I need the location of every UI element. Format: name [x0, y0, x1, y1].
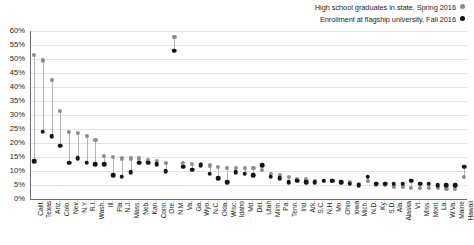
data-point-enrollment [260, 163, 265, 168]
data-point-enrollment [58, 144, 63, 149]
gridline [30, 31, 467, 32]
gridline [30, 129, 467, 130]
data-point-enrollment [330, 179, 335, 184]
data-point-enrollment [76, 156, 81, 161]
data-point-graduates [164, 161, 168, 165]
data-point-enrollment [304, 180, 309, 185]
x-axis-tick-label: Fla. [116, 201, 123, 212]
data-point-enrollment [444, 183, 449, 188]
data-point-graduates [67, 130, 71, 134]
x-axis-tick-label: Vt. [414, 201, 421, 209]
data-point-graduates [190, 162, 194, 166]
x-axis-tick-label: Va. [186, 201, 193, 210]
x-axis-tick-label: Conn. [160, 201, 167, 218]
x-axis-tick-label: N.J. [124, 201, 131, 213]
data-point-enrollment [93, 162, 98, 167]
data-point-enrollment [234, 170, 239, 175]
x-axis-tick-label: Iowa [353, 201, 360, 215]
x-axis-tick-label: Hawaii [467, 201, 474, 221]
connector-stem [69, 132, 70, 163]
x-axis-tick-label: S.C. [317, 201, 324, 214]
gridline [30, 73, 467, 74]
data-point-enrollment [181, 165, 186, 170]
data-point-graduates [225, 166, 229, 170]
x-axis-tick-label: La. [440, 201, 447, 210]
data-point-enrollment [102, 162, 107, 167]
gridline [30, 87, 467, 88]
connector-stem [34, 55, 35, 161]
y-axis-tick-label: 20% [10, 139, 25, 147]
data-point-graduates [453, 187, 457, 191]
data-point-graduates [93, 138, 97, 142]
x-axis-tick-label: Ga. [195, 201, 202, 211]
data-point-enrollment [356, 183, 361, 188]
data-point-graduates [41, 58, 45, 62]
x-axis-tick-label: Ariz. [54, 201, 61, 214]
data-point-enrollment [418, 181, 423, 186]
x-axis-tick-label: Miss. [423, 201, 430, 216]
x-axis-tick-label: Mass. [133, 201, 140, 218]
data-point-enrollment [190, 167, 195, 172]
x-axis-tick-label: Ark. [309, 201, 316, 213]
data-point-enrollment [453, 183, 458, 188]
y-axis-tick-label: 5% [14, 181, 25, 189]
data-point-graduates [286, 175, 290, 179]
x-axis-tick-label: Wisc. [230, 201, 237, 217]
connector-stem [52, 80, 53, 136]
data-point-enrollment [216, 176, 221, 181]
x-axis-tick-label: Pa. [282, 201, 289, 211]
data-point-graduates [207, 163, 211, 167]
data-point-graduates [365, 179, 369, 183]
y-axis-line [30, 31, 31, 200]
data-point-graduates [76, 131, 80, 135]
data-point-enrollment [67, 160, 72, 165]
data-point-enrollment [41, 130, 46, 135]
data-point-enrollment [146, 160, 151, 165]
y-axis-tick-label: 30% [10, 111, 25, 119]
x-axis-tick-label: Texas [45, 201, 52, 218]
gridline [30, 101, 467, 102]
data-point-graduates [444, 187, 448, 191]
x-axis-tick-label: Ky. [379, 201, 386, 210]
y-axis-tick-label: 60% [10, 27, 25, 35]
y-axis-tick-label: 45% [10, 69, 25, 77]
data-point-enrollment [155, 162, 160, 167]
data-point-graduates [251, 166, 255, 170]
data-point-graduates [172, 35, 176, 39]
data-point-graduates [32, 53, 36, 57]
y-axis-labels: 0%5%10%15%20%25%30%35%40%45%50%55%60% [0, 0, 28, 205]
x-axis-tick-label: Mont. [432, 201, 439, 217]
data-point-enrollment [365, 174, 370, 179]
data-point-enrollment [163, 169, 168, 174]
x-axis-tick-label: Colo. [63, 201, 70, 216]
x-axis-tick-label: N.M. [177, 201, 184, 215]
connector-stem [78, 133, 79, 158]
y-axis-tick-label: 35% [10, 97, 25, 105]
x-axis-tick-label: Ore. [168, 201, 175, 214]
data-point-enrollment [137, 160, 142, 165]
y-axis-tick-label: 10% [10, 167, 25, 175]
x-axis-tick-label: Tenn. [291, 201, 298, 217]
data-point-enrollment [374, 181, 379, 186]
x-axis-tick-label: Wash. [98, 201, 105, 219]
gridline [30, 59, 467, 60]
x-axis-tick-label: Minn. [274, 201, 281, 217]
data-point-enrollment [409, 179, 414, 184]
x-axis-tick-label: N.H. [326, 201, 333, 214]
x-axis-tick-label: Kan. [151, 201, 158, 214]
x-axis-tick-label: Del. [256, 201, 263, 213]
data-point-graduates [409, 186, 413, 190]
x-axis-tick-label: Nev. [72, 201, 79, 214]
data-point-enrollment [111, 173, 116, 178]
data-point-graduates [462, 175, 466, 179]
data-point-enrollment [462, 165, 467, 170]
connector-stem [60, 111, 61, 146]
x-axis-tick-label: R.I. [89, 201, 96, 211]
x-axis-tick-label: Wyo. [203, 201, 210, 216]
data-point-enrollment [49, 134, 54, 139]
data-point-graduates [427, 186, 431, 190]
x-axis-tick-label: W.Va. [449, 201, 456, 218]
data-point-graduates [418, 186, 422, 190]
